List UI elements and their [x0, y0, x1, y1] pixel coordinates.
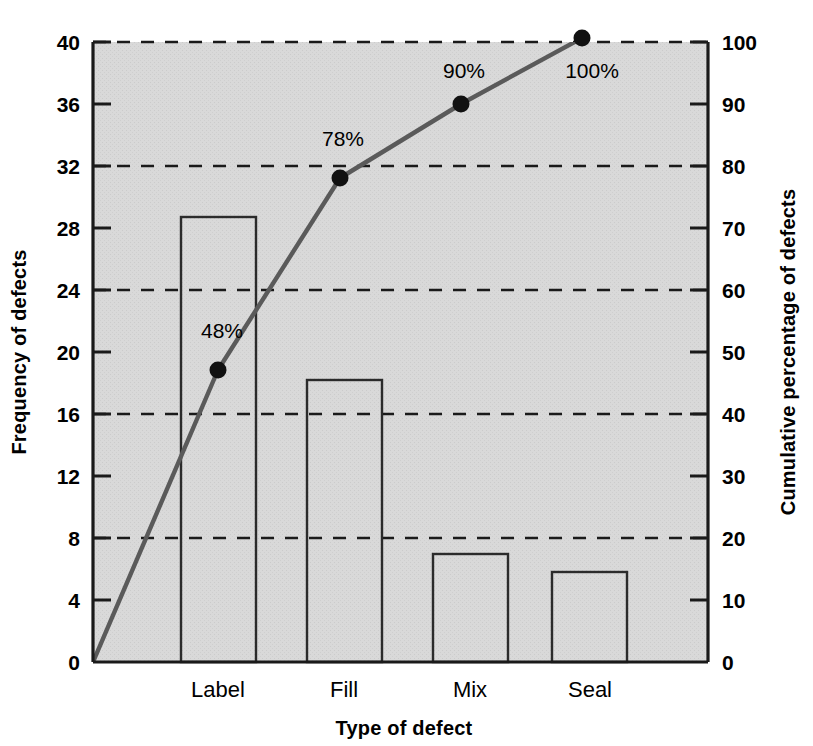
left-tick-label-4: 4: [68, 589, 80, 612]
category-labels: Label Fill Mix Seal: [191, 677, 612, 702]
right-tick-label-90: 90: [722, 93, 745, 116]
pareto-chart: 48% 78% 90% 100% 40 36 32 28: [0, 0, 813, 746]
category-label-fill: Fill: [330, 677, 358, 702]
right-tick-label-40: 40: [722, 403, 745, 426]
category-label-mix: Mix: [453, 677, 487, 702]
point-label-48: 48%: [201, 319, 243, 342]
left-tick-label-40: 40: [57, 31, 80, 54]
right-tick-label-0: 0: [722, 651, 734, 674]
x-axis-title: Type of defect: [336, 717, 473, 739]
left-tick-label-28: 28: [57, 217, 81, 240]
left-axis-tick-labels: 40 36 32 28 24 20 16 12 8 4 0: [57, 31, 81, 674]
left-tick-label-12: 12: [57, 465, 80, 488]
y-axis-title-right: Cumulative percentage of defects: [777, 189, 799, 516]
right-tick-label-70: 70: [722, 217, 745, 240]
left-tick-label-20: 20: [57, 341, 80, 364]
left-tick-label-8: 8: [68, 527, 80, 550]
y-axis-title-left: Frequency of defects: [8, 249, 30, 454]
right-tick-label-100: 100: [722, 31, 757, 54]
category-label-seal: Seal: [568, 677, 612, 702]
plot-area-background: [93, 42, 708, 662]
marker-seal: [574, 30, 591, 47]
pareto-chart-canvas: 48% 78% 90% 100% 40 36 32 28: [0, 0, 813, 746]
right-tick-label-10: 10: [722, 589, 745, 612]
point-label-100: 100%: [565, 59, 619, 82]
category-label-label: Label: [191, 677, 245, 702]
marker-label: [210, 362, 227, 379]
right-tick-label-50: 50: [722, 341, 745, 364]
left-tick-label-36: 36: [57, 93, 80, 116]
marker-mix: [453, 96, 470, 113]
left-tick-label-32: 32: [57, 155, 80, 178]
left-tick-label-24: 24: [57, 279, 81, 302]
right-tick-label-30: 30: [722, 465, 745, 488]
right-axis-tick-labels: 100 90 80 70 60 50 40 30 20 10 0: [722, 31, 757, 674]
point-label-78: 78%: [322, 127, 364, 150]
marker-fill: [332, 170, 349, 187]
left-tick-label-0: 0: [68, 651, 80, 674]
left-tick-label-16: 16: [57, 403, 80, 426]
right-tick-label-80: 80: [722, 155, 745, 178]
right-tick-label-20: 20: [722, 527, 745, 550]
point-label-90: 90%: [443, 59, 485, 82]
right-tick-label-60: 60: [722, 279, 745, 302]
